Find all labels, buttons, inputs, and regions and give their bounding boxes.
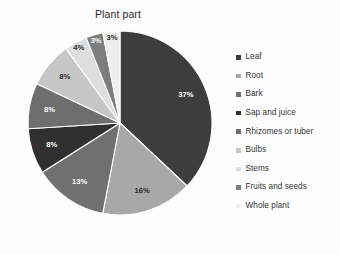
legend-item[interactable]: Whole plant [236, 197, 340, 216]
legend-item[interactable]: Root [236, 67, 340, 86]
pie-slices-group [28, 31, 212, 215]
legend-item-label: Root [246, 71, 264, 81]
pie-slice-value-label: 3% [106, 33, 117, 42]
legend-swatch-icon [236, 74, 241, 79]
pie-slice-value-label: 16% [135, 186, 150, 195]
pie-chart-svg: 37%16%13%8%8%8%4%3%3% [24, 27, 216, 219]
pie-slice-value-label: 4% [73, 43, 84, 52]
legend-item-label: Leaf [246, 52, 262, 62]
legend-item[interactable]: Leaf [236, 48, 340, 67]
legend-item[interactable]: Stems [236, 160, 340, 179]
legend-item-label: Sap and juice [246, 108, 296, 118]
chart-title: Plant part [0, 8, 236, 20]
legend-swatch-icon [236, 55, 241, 60]
pie-slice-value-label: 8% [44, 105, 55, 114]
pie-chart-figure: Plant part 37%16%13%8%8%8%4%3%3% LeafRoo… [0, 0, 340, 255]
legend-swatch-icon [236, 148, 241, 153]
pie-slice-value-label: 8% [46, 140, 57, 149]
legend-swatch-icon [236, 204, 241, 209]
legend-item[interactable]: Rhizomes or tuber [236, 122, 340, 141]
pie-slice-value-label: 8% [59, 72, 70, 81]
legend-swatch-icon [236, 129, 241, 134]
legend-item[interactable]: Sap and juice [236, 104, 340, 123]
legend-item[interactable]: Bulbs [236, 141, 340, 160]
legend-item-label: Bark [246, 89, 263, 99]
legend-item[interactable]: Bark [236, 85, 340, 104]
legend-swatch-icon [236, 185, 241, 190]
pie-slice-value-label: 37% [178, 90, 193, 99]
legend-item-label: Bulbs [246, 145, 267, 155]
chart-legend: LeafRootBarkSap and juiceRhizomes or tub… [236, 48, 340, 215]
legend-item-label: Fruits and seeds [246, 182, 307, 192]
legend-item[interactable]: Fruits and seeds [236, 178, 340, 197]
pie-slice-value-label: 3% [91, 36, 102, 45]
legend-swatch-icon [236, 111, 241, 116]
legend-swatch-icon [236, 167, 241, 172]
legend-item-label: Whole plant [246, 201, 290, 211]
legend-swatch-icon [236, 92, 241, 97]
pie-slice-value-label: 13% [72, 177, 87, 186]
pie-chart-plot-area: 37%16%13%8%8%8%4%3%3% [24, 27, 216, 219]
legend-item-label: Rhizomes or tuber [246, 127, 314, 137]
legend-item-label: Stems [246, 164, 269, 174]
